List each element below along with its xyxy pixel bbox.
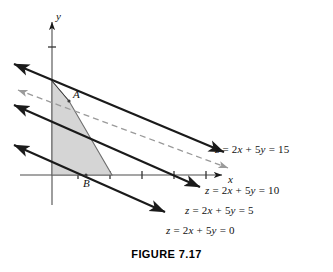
equation-label-z5: z = 2x + 5y = 5 bbox=[185, 204, 254, 216]
y-axis-label: y bbox=[56, 10, 61, 22]
objective-line-z15 bbox=[18, 90, 228, 168]
vertex-label-b: B bbox=[83, 177, 90, 189]
vertex-label-a: A bbox=[73, 88, 80, 100]
equation-label-z0: z = 2x + 5y = 0 bbox=[166, 224, 235, 236]
figure-caption: FIGURE 7.17 bbox=[0, 248, 333, 260]
objective-lines bbox=[14, 64, 228, 212]
equation-label-z15: z = 2x + 5y = 15 bbox=[215, 143, 289, 155]
vertex-point-a bbox=[67, 99, 70, 102]
objective-line-z10 bbox=[14, 64, 224, 152]
equation-label-z10: z = 2x + 5y = 10 bbox=[205, 184, 279, 196]
axes bbox=[20, 22, 222, 205]
figure-container: x y A B z = 2x + 5y = 15 z = 2x + 5y = 1… bbox=[0, 0, 333, 272]
feasible-region bbox=[52, 81, 112, 175]
